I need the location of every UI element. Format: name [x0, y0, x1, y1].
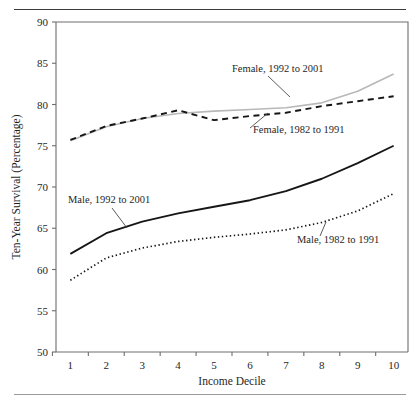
x-tick-label: 2 [104, 359, 110, 371]
y-axis-title: Ten-Year Survival (Percentage) [10, 114, 23, 259]
figure-container: 50556065707580859012345678910 Female, 19… [0, 0, 418, 403]
x-tick-label: 7 [283, 359, 289, 371]
y-tick-label: 70 [37, 181, 49, 193]
y-tick-label: 50 [37, 346, 49, 358]
annotation-leader-2 [112, 208, 127, 228]
series-label-0: Female, 1992 to 2001 [232, 63, 324, 74]
annotation-leader-0 [268, 76, 290, 97]
y-tick-label: 85 [37, 57, 49, 69]
y-tick-label: 90 [37, 16, 49, 28]
series-line-1 [70, 96, 393, 140]
y-tick-label: 55 [37, 305, 49, 317]
series-label-2: Male, 1992 to 2001 [68, 194, 150, 205]
x-tick-label: 1 [68, 359, 74, 371]
y-tick-label: 75 [37, 140, 49, 152]
y-tick-label: 80 [37, 99, 49, 111]
x-tick-label: 3 [139, 359, 145, 371]
line-chart: 50556065707580859012345678910 Female, 19… [0, 0, 418, 403]
series-label-3: Male, 1982 to 1991 [297, 234, 379, 245]
series-line-0 [70, 74, 393, 141]
x-tick-label: 8 [319, 359, 325, 371]
series-label-1: Female, 1982 to 1991 [253, 124, 345, 135]
y-tick-label: 65 [37, 222, 49, 234]
axis-titles: Income DecileTen-Year Survival (Percenta… [10, 114, 266, 387]
x-tick-label: 9 [355, 359, 361, 371]
series-annotations: Female, 1992 to 2001Female, 1982 to 1991… [68, 63, 379, 245]
x-tick-label: 6 [247, 359, 253, 371]
series-lines [70, 74, 393, 280]
x-tick-label: 10 [388, 359, 400, 371]
x-tick-label: 5 [211, 359, 217, 371]
x-axis-title: Income Decile [198, 375, 265, 387]
y-tick-label: 60 [37, 264, 49, 276]
x-tick-label: 4 [175, 359, 181, 371]
